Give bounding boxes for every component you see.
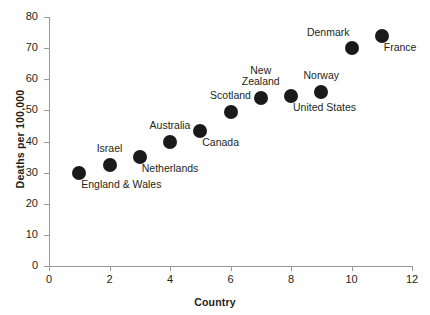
x-axis-tick [49,266,50,271]
x-axis-title: Country [0,296,430,308]
data-point-label: Israel [55,143,165,155]
x-axis-tick-label: 10 [337,273,367,285]
y-axis-tick [44,48,49,49]
x-axis-tick-label: 6 [216,273,246,285]
data-point-marker [224,105,238,119]
y-axis-tick [44,235,49,236]
y-axis-tick-label: 40 [8,135,38,147]
x-axis-tick-label: 2 [95,273,125,285]
y-axis-tick-label: 20 [8,197,38,209]
y-axis-tick [44,142,49,143]
data-point-label: Scotland [176,90,286,102]
y-axis-tick [44,204,49,205]
y-axis-line [49,17,50,267]
data-point-label: France [384,42,430,54]
data-point-label: United States [293,102,403,114]
y-axis-tick-label: 60 [8,72,38,84]
y-axis-tick-label: 80 [8,10,38,22]
data-point-marker [314,85,328,99]
y-axis-tick [44,110,49,111]
y-axis-tick-label: 50 [8,103,38,115]
data-point-label: Netherlands [142,163,252,175]
y-axis-tick [44,173,49,174]
y-axis-tick [44,17,49,18]
x-axis-tick [291,266,292,271]
data-point-marker [103,158,117,172]
data-point-label: Australia [115,120,225,132]
y-axis-tick-label: 30 [8,166,38,178]
y-axis-tick [44,79,49,80]
data-point-marker [254,91,268,105]
x-axis-tick [231,266,232,271]
y-axis-tick-label: 0 [8,259,38,271]
x-axis-tick [110,266,111,271]
x-axis-tick-label: 12 [397,273,427,285]
x-axis-tick-label: 4 [155,273,185,285]
data-point-label: England & Wales [81,179,191,191]
data-point-label: Denmark [240,27,350,39]
y-axis-tick-label: 70 [8,41,38,53]
x-axis-tick [352,266,353,271]
data-point-label: Canada [202,137,312,149]
data-point-label: Norway [266,70,376,82]
data-point-marker [163,135,177,149]
x-axis-tick-label: 8 [276,273,306,285]
y-axis-tick-label: 10 [8,228,38,240]
x-axis-tick [412,266,413,271]
x-axis-tick-label: 0 [34,273,64,285]
scatter-chart: Deaths per 100,000 Country 0102030405060… [0,0,430,315]
x-axis-tick [170,266,171,271]
data-point-marker [345,41,359,55]
